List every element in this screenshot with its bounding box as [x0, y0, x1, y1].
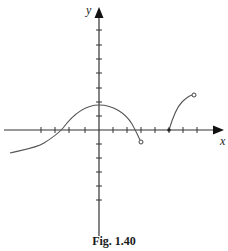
- figure-caption: Fig. 1.40: [0, 234, 228, 249]
- y-axis-arrow-icon: [95, 7, 104, 18]
- x-axis-label: x: [220, 134, 225, 149]
- curve-left-piece: [10, 105, 140, 153]
- open-circle-endpoint-right: [192, 93, 196, 97]
- y-axis-label: y: [86, 3, 91, 18]
- closed-dot-endpoint: [167, 128, 171, 132]
- curve-right-piece: [169, 95, 192, 130]
- open-circle-endpoint: [139, 140, 143, 144]
- function-graph: [0, 0, 228, 251]
